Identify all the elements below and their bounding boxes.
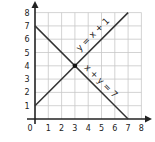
x-tick-label: 0	[27, 124, 32, 133]
x-tick-label: 3	[72, 124, 77, 133]
y-axis-arrow-icon	[32, 1, 39, 8]
y-tick-label: 1	[24, 102, 29, 111]
y-tick-label: 6	[24, 35, 29, 44]
x-tick-label: 1	[46, 124, 51, 133]
intersection-point	[73, 64, 78, 69]
y-tick-label: 8	[24, 9, 29, 18]
y-tick-label: 4	[24, 62, 29, 71]
y-tick-label: 5	[24, 49, 29, 58]
graph: 01234567812345678y = x + 1x + y = 7	[0, 0, 155, 142]
x-tick-label: 7	[126, 124, 131, 133]
x-tick-label: 5	[99, 124, 104, 133]
x-tick-label: 4	[86, 124, 91, 133]
x-tick-label: 6	[112, 124, 117, 133]
y-tick-label: 7	[24, 22, 29, 31]
x-tick-label: 8	[139, 124, 144, 133]
x-axis-arrow-icon	[145, 116, 152, 123]
y-tick-label: 2	[24, 88, 29, 97]
x-tick-label: 2	[59, 124, 64, 133]
y-tick-label: 3	[24, 75, 29, 84]
